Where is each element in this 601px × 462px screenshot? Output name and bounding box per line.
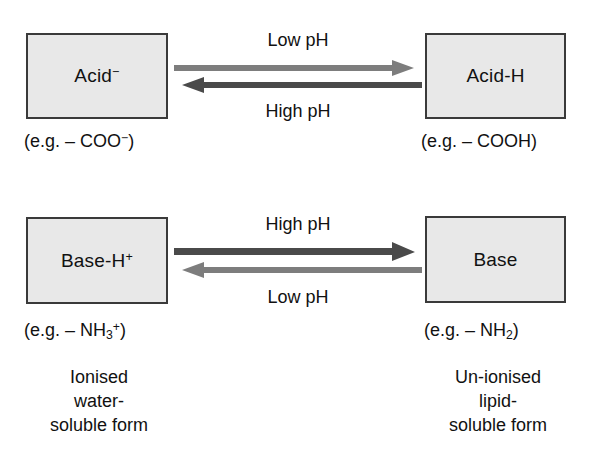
- arrow-left-low-ph-icon: [174, 260, 422, 280]
- caption-base-h: (e.g. – NH3+): [24, 320, 126, 342]
- base-arrow-group: High pH Low pH: [174, 214, 422, 308]
- arrow-right-high-ph-icon: [174, 242, 422, 262]
- descriptor-left-line-1: Ionised: [9, 366, 189, 390]
- box-base-label: Base: [473, 249, 517, 271]
- acid-arrow-group: Low pH High pH: [174, 30, 422, 122]
- caption-base: (e.g. – NH2): [424, 320, 519, 342]
- descriptor-right-line-3: soluble form: [408, 414, 588, 438]
- arrow-left-high-ph-icon: [174, 76, 422, 96]
- descriptor-right-line-1: Un-ionised: [408, 366, 588, 390]
- box-base-h-label: Base-H+: [61, 250, 133, 272]
- diagram-canvas: Acid− Acid-H Low pH High pH (e.g. – COO−…: [0, 0, 601, 462]
- box-base: Base: [425, 216, 566, 303]
- box-base-h: Base-H+: [26, 217, 168, 304]
- descriptor-unionised-lipid-soluble: Un-ionised lipid- soluble form: [408, 366, 588, 437]
- descriptor-left-line-3: soluble form: [9, 414, 189, 438]
- descriptor-ionised-water-soluble: Ionised water- soluble form: [9, 366, 189, 437]
- box-acid-h: Acid-H: [425, 33, 566, 119]
- arrow-label-high-ph-top: High pH: [174, 101, 422, 122]
- arrow-label-low-ph-bottom: Low pH: [174, 287, 422, 308]
- caption-acid-anion: (e.g. – COO−): [24, 131, 134, 152]
- box-acid-anion: Acid−: [26, 33, 168, 119]
- box-acid-h-label: Acid-H: [466, 65, 524, 87]
- arrow-label-low-ph-top: Low pH: [174, 30, 422, 51]
- arrow-right-low-ph-icon: [174, 58, 422, 78]
- descriptor-right-line-2: lipid-: [408, 390, 588, 414]
- descriptor-left-line-2: water-: [9, 390, 189, 414]
- box-acid-anion-label: Acid−: [74, 65, 119, 87]
- arrow-label-high-ph-bottom: High pH: [174, 214, 422, 235]
- caption-acid-h: (e.g. – COOH): [421, 131, 537, 152]
